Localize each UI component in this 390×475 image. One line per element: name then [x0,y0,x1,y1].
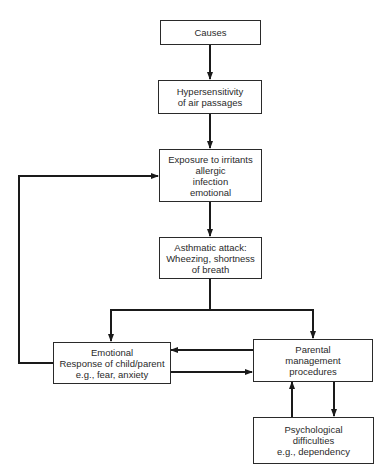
node-exposure-line-3: infection [193,176,228,187]
node-asthmatic-attack-line-3: of breath [192,264,230,275]
node-psychological-difficulties-line-2: difficulties [293,435,335,446]
arrow-asthmatic-to-parental [210,310,313,338]
node-psychological-difficulties-line-3: e.g., dependency [277,446,350,457]
node-hypersensitivity-line-1: Hypersensitivity [177,86,244,97]
node-causes-line-1: Causes [194,27,226,38]
node-emotional-response-line-1: Emotional [91,347,133,358]
node-parental-management-line-2: management [285,355,340,366]
node-asthmatic-attack-line-2: Wheezing, shortness [166,253,255,264]
node-exposure-line-4: emotional [190,187,231,198]
node-causes: Causes [160,20,261,45]
node-emotional-response: Emotional Response of child/parent e.g.,… [53,342,171,384]
node-psychological-difficulties-line-1: Psychological [284,424,342,435]
node-emotional-response-line-3: e.g., fear, anxiety [76,369,148,380]
node-exposure: Exposure to irritants allergic infection… [159,149,262,202]
arrow-asthmatic-to-emotional [111,278,210,341]
node-psychological-difficulties: Psychological difficulties e.g., depende… [253,417,374,464]
arrow-emotional-feedback-to-exposure [19,176,158,363]
node-emotional-response-line-2: Response of child/parent [59,358,164,369]
node-parental-management-line-3: procedures [289,366,337,377]
node-exposure-line-2: allergic [195,165,225,176]
node-asthmatic-attack: Asthmatic attack: Wheezing, shortness of… [159,237,262,279]
node-parental-management: Parental management procedures [253,339,373,382]
node-exposure-line-1: Exposure to irritants [168,154,252,165]
node-hypersensitivity: Hypersensitivity of air passages [158,80,262,114]
node-hypersensitivity-line-2: of air passages [178,97,242,108]
node-asthmatic-attack-line-1: Asthmatic attack: [174,242,246,253]
node-parental-management-line-1: Parental [295,344,330,355]
